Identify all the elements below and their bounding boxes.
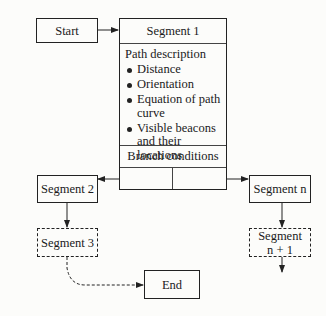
segmentn1-label-line2: n + 1	[267, 243, 293, 257]
segment1-title: Segment 1	[120, 19, 226, 44]
end-box: End	[144, 270, 200, 299]
segment2-box: Segment 2	[37, 175, 98, 203]
arrow-segment3-to-end	[67, 257, 143, 285]
end-label: End	[162, 278, 182, 292]
segment3-label: Segment 3	[41, 236, 94, 250]
start-label: Start	[55, 24, 79, 38]
branch-conditions-label: Branch conditions	[120, 145, 226, 168]
bullet-orientation: Orientation	[125, 78, 222, 92]
segmentn1-label-line1: Segment	[258, 229, 302, 243]
segment2-label: Segment 2	[41, 182, 94, 196]
start-box: Start	[36, 18, 98, 43]
segment1-box: Segment 1 Path description Distance Orie…	[119, 18, 227, 190]
bullet-equation: Equation of path curve	[125, 93, 222, 120]
bullet-distance: Distance	[125, 63, 222, 77]
path-description-label: Path description	[125, 47, 222, 62]
branch-split-divider	[172, 167, 173, 189]
path-description: Path description Distance Orientation Eq…	[120, 44, 226, 147]
segmentn-box: Segment n	[249, 175, 311, 203]
segmentn1-box: Segment n + 1	[249, 228, 311, 257]
segment3-box: Segment 3	[37, 228, 98, 257]
segmentn-label: Segment n	[253, 182, 306, 196]
